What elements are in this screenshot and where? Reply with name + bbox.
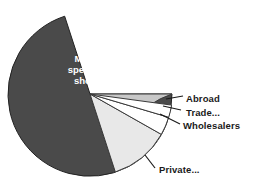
pie-callout-abroad[interactable]: Abroad — [186, 93, 220, 104]
pie-callout-trade[interactable]: Trade... — [186, 107, 220, 118]
pie-label-music-specialty-shops-line3: shops — [74, 75, 102, 86]
pie-callout-wholesalers[interactable]: Wholesalers — [183, 120, 240, 131]
leader-line-private — [145, 155, 155, 168]
pie-chart: Music specialty shops Abroad Trade... Wh… — [0, 0, 254, 189]
pie-label-music-specialty-shops-line1: Music — [75, 53, 102, 64]
pie-callout-private[interactable]: Private... — [159, 164, 200, 175]
pie-label-music-specialty-shops-line2: specialty — [68, 64, 109, 75]
